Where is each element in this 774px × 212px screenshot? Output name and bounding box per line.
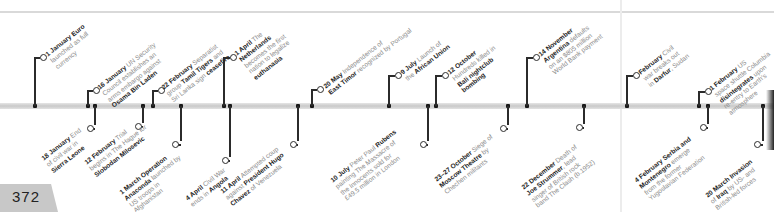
- timeline-stem: [152, 90, 154, 106]
- timeline-stem: [507, 106, 509, 125]
- timeline-event-label: 18 January Endof civil war inSierra Leon…: [40, 126, 92, 174]
- timeline-stem: [94, 106, 96, 125]
- timeline-stem: [311, 89, 313, 106]
- timeline-event-label: 20 March Invasionof Iraq by US- andBriti…: [704, 158, 763, 212]
- timeline-stem: [142, 106, 144, 123]
- timeline-event-ring: [222, 157, 229, 164]
- timeline-event-label: 16 January UN SecurityCouncil establishe…: [96, 41, 172, 110]
- timeline-stem: [180, 106, 182, 141]
- timeline-event-label: 4 February Serbia andMontenegro emergefr…: [633, 135, 707, 202]
- timeline-event-label: 20 May Independence ofEast Timor recogni…: [322, 20, 413, 96]
- label-line: group Tamil Tigers and: [165, 47, 227, 98]
- timeline-event-label: 22 December Death ofJoe Strummer, leadsi…: [520, 140, 597, 209]
- timeline-event-ring: [576, 124, 583, 131]
- timeline-event-label: 12 OctoberHundreds killed inBali nightcl…: [446, 38, 507, 95]
- timeline-stem: [388, 75, 390, 106]
- timeline-stem: [526, 57, 528, 106]
- timeline-event-label: 22 February Separatistgroup Tamil Tigers…: [160, 41, 231, 104]
- timeline-stem: [297, 106, 299, 141]
- label-line: East Timor recognized by Portugal: [327, 27, 413, 97]
- timeline-stem: [229, 106, 231, 157]
- timeline-event-label: 14 NovemberArgentina defaultson an $805 …: [537, 14, 604, 76]
- timeline-event-label: 1 March OperationAnaconda launched byUS …: [118, 147, 192, 212]
- page-edge-shadow: [766, 90, 774, 150]
- timeline-event-ring: [500, 125, 507, 132]
- timeline-stem: [707, 106, 709, 124]
- label-line: 20 May Independence of: [322, 20, 408, 90]
- timeline-stem: [698, 91, 700, 106]
- timeline-stem: [626, 75, 628, 106]
- top-rule: [0, 11, 774, 13]
- timeline-event-label: 1 April TheNetherlandsbecomes the firstn…: [233, 20, 297, 82]
- timeline-stem: [87, 90, 89, 106]
- timeline-stem: [762, 106, 764, 141]
- timeline-event-label: February Civilwar breaks outin Darfur, S…: [637, 40, 690, 89]
- timeline-stem: [583, 106, 585, 124]
- timeline-stem: [435, 75, 437, 106]
- timeline-event-ring: [87, 125, 94, 132]
- timeline-stem: [427, 106, 429, 141]
- timeline-event-label: 23–27 October Siege ofMoscow Theatre byC…: [433, 133, 504, 195]
- timeline-stem: [223, 57, 225, 106]
- label-line: Moscow Theatre by: [438, 139, 499, 189]
- timeline-event-label: 10 July Peter Paul Rubenspainting The Ma…: [329, 128, 412, 202]
- timeline-event-ring: [317, 86, 324, 93]
- timeline-event-label: 1 January Eurolaunched as fullcurrency: [44, 23, 96, 71]
- label-line: against President Hugo: [224, 151, 285, 201]
- timeline-event-ring: [700, 124, 707, 131]
- timeline-event-ring: [754, 141, 761, 148]
- page-number: 372: [12, 188, 40, 205]
- timeline-event-ring: [290, 141, 297, 148]
- timeline-stem: [34, 57, 36, 106]
- timeline-event-ring: [420, 141, 427, 148]
